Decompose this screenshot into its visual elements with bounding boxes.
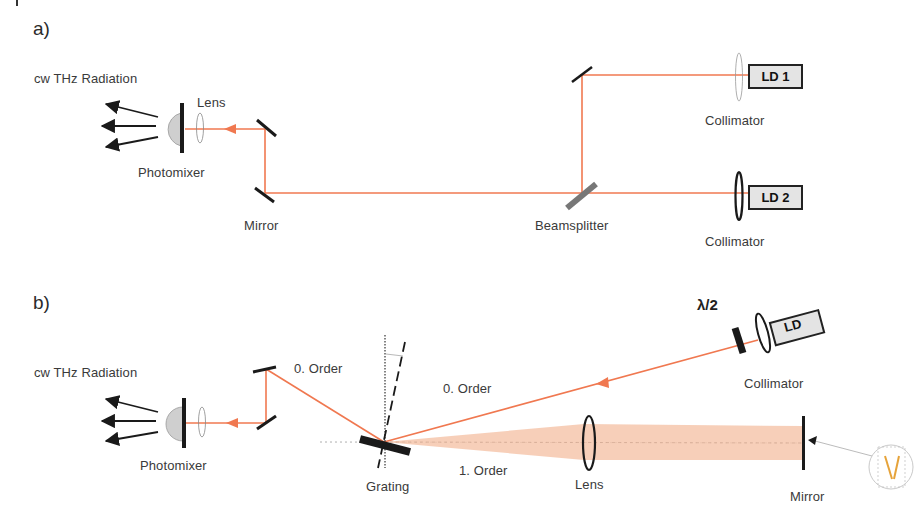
- collimator-lens-icon: [753, 312, 773, 353]
- label-grating: Grating: [366, 479, 409, 494]
- panel-b: [102, 310, 913, 489]
- mirror-inset-detail-icon: [869, 445, 913, 489]
- laser-diode-2: LD 2: [748, 185, 803, 210]
- label-beamsplitter: Beamsplitter: [535, 218, 608, 233]
- lens-icon: [197, 113, 204, 143]
- photomixer-substrate: [182, 398, 186, 448]
- zero-order-reflected-beam: [266, 369, 384, 442]
- thz-radiation-arrows-icon: [102, 399, 158, 441]
- end-mirror-icon: [802, 416, 805, 470]
- label-photomixer: Photomixer: [138, 165, 205, 180]
- photomixer-lens-icon: [166, 407, 183, 441]
- panel-label-b: b): [33, 292, 50, 314]
- label-zero-order-incident: 0. Order: [443, 381, 491, 396]
- label-collimator: Collimator: [744, 376, 804, 391]
- panel-a: [102, 53, 748, 220]
- crop-mark: [16, 0, 18, 6]
- label-cw-thz-radiation: cw THz Radiation: [34, 71, 137, 86]
- panel-label-a: a): [33, 18, 50, 40]
- optical-setup-diagram: LD 1 LD 2 LD a) b) cw THz Radiation Lens…: [0, 0, 916, 510]
- label-collimator-1: Collimator: [705, 113, 765, 128]
- photomixer-substrate: [180, 103, 184, 153]
- laser-diode-1: LD 1: [748, 64, 803, 89]
- mirror-icon: [257, 120, 276, 136]
- label-mirror: Mirror: [790, 489, 825, 504]
- label-lens: Lens: [575, 477, 604, 492]
- inset-pointer: [815, 441, 872, 456]
- laser-diode-1-label: LD 1: [761, 69, 789, 84]
- beam-direction-arrow-icon: [226, 418, 238, 428]
- laser-diode-2-label: LD 2: [761, 190, 789, 205]
- collimator-lens-1-icon: [736, 53, 743, 101]
- lens-icon: [199, 407, 206, 437]
- photomixer-lens-icon: [168, 113, 181, 146]
- laser-beam-path-a: [185, 75, 748, 193]
- beam-direction-arrow-icon: [224, 124, 236, 134]
- angle-marker: [386, 354, 403, 356]
- half-wave-plate-icon: [735, 328, 743, 353]
- pointer-arrow-icon: [808, 436, 817, 445]
- beam-direction-arrow-icon: [596, 377, 609, 388]
- label-photomixer: Photomixer: [140, 458, 207, 473]
- mirror-icon: [253, 367, 276, 372]
- thz-radiation-arrows-icon: [102, 104, 158, 147]
- label-collimator-2: Collimator: [705, 234, 765, 249]
- label-zero-order-reflected: 0. Order: [294, 361, 342, 376]
- label-mirror: Mirror: [244, 218, 279, 233]
- label-first-order: 1. Order: [459, 463, 507, 478]
- label-lens: Lens: [197, 95, 226, 110]
- label-half-wave-plate: λ/2: [697, 296, 718, 313]
- label-cw-thz-radiation: cw THz Radiation: [34, 365, 137, 380]
- collimator-lens-2-icon: [736, 172, 743, 220]
